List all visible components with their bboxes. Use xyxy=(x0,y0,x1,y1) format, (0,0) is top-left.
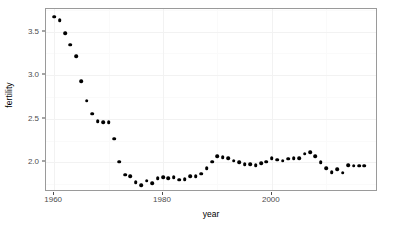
data-point xyxy=(341,171,345,175)
data-point xyxy=(227,156,231,160)
data-point xyxy=(254,163,258,167)
data-point xyxy=(221,155,225,159)
data-point xyxy=(319,161,323,165)
data-point xyxy=(363,164,367,168)
y-tick-label: 2.0 xyxy=(16,157,42,166)
data-point xyxy=(205,167,209,171)
data-point xyxy=(134,181,138,185)
y-tick-label: 3.5 xyxy=(16,26,42,35)
x-axis-tick-labels: 196019802000 xyxy=(45,193,377,207)
data-point xyxy=(52,15,56,19)
y-axis-tick-labels: 2.02.53.03.5 xyxy=(16,0,42,190)
data-point xyxy=(194,175,198,179)
data-point xyxy=(156,176,160,180)
plot-panel xyxy=(45,8,377,191)
x-tick-label: 2000 xyxy=(262,195,280,204)
data-point xyxy=(281,159,285,163)
y-tick-mark xyxy=(42,30,45,31)
data-point xyxy=(96,120,100,124)
data-point xyxy=(74,54,78,58)
data-point xyxy=(248,162,252,166)
data-point xyxy=(335,168,339,172)
data-point xyxy=(58,19,62,23)
data-point xyxy=(265,160,269,164)
data-point xyxy=(276,158,280,162)
data-point xyxy=(69,43,73,47)
data-point xyxy=(167,176,171,180)
data-point xyxy=(161,175,165,179)
data-point xyxy=(297,156,301,160)
grid-major-y xyxy=(46,75,376,76)
x-tick-mark xyxy=(53,192,54,195)
grid-major-x xyxy=(54,9,55,190)
data-point xyxy=(330,170,334,174)
data-point xyxy=(259,161,263,165)
fertility-scatter-chart: fertility 2.02.53.03.5 196019802000 year xyxy=(0,0,393,231)
data-point xyxy=(232,159,236,163)
x-tick-mark xyxy=(162,192,163,195)
data-point xyxy=(123,173,127,177)
data-point xyxy=(243,162,247,166)
data-point xyxy=(107,120,111,124)
x-tick-label: 1980 xyxy=(153,195,171,204)
data-point xyxy=(80,80,84,84)
y-axis-title-text: fertility xyxy=(4,82,14,107)
data-point xyxy=(270,156,274,160)
data-point xyxy=(324,167,328,171)
data-point xyxy=(346,163,350,167)
data-point xyxy=(199,172,203,176)
x-tick-mark xyxy=(271,192,272,195)
data-point xyxy=(188,175,192,179)
y-tick-mark xyxy=(42,117,45,118)
data-point xyxy=(90,112,94,116)
y-tick-mark xyxy=(42,74,45,75)
y-tick-label: 2.5 xyxy=(16,113,42,122)
x-axis-title: year xyxy=(45,209,377,219)
data-point xyxy=(216,154,220,158)
data-point xyxy=(85,99,89,103)
data-point xyxy=(352,164,356,168)
data-point xyxy=(63,32,67,36)
grid-major-y xyxy=(46,32,376,33)
data-point xyxy=(145,179,149,183)
data-point xyxy=(314,154,318,158)
x-tick-label: 1960 xyxy=(44,195,62,204)
data-point xyxy=(292,156,296,160)
data-point xyxy=(357,164,361,168)
data-point xyxy=(101,120,105,124)
data-point xyxy=(172,175,176,179)
grid-major-x xyxy=(272,9,273,190)
data-point xyxy=(210,160,214,164)
data-point xyxy=(178,178,182,182)
data-point xyxy=(112,137,116,141)
data-point xyxy=(139,183,143,187)
y-tick-mark xyxy=(42,161,45,162)
data-point xyxy=(150,181,154,185)
data-point xyxy=(183,177,187,181)
data-point xyxy=(286,157,290,161)
data-point xyxy=(237,161,241,165)
data-point xyxy=(308,150,312,154)
data-point xyxy=(129,175,133,179)
data-point xyxy=(303,152,307,156)
data-point xyxy=(118,160,122,164)
y-tick-label: 3.0 xyxy=(16,70,42,79)
grid-major-x xyxy=(163,9,164,190)
